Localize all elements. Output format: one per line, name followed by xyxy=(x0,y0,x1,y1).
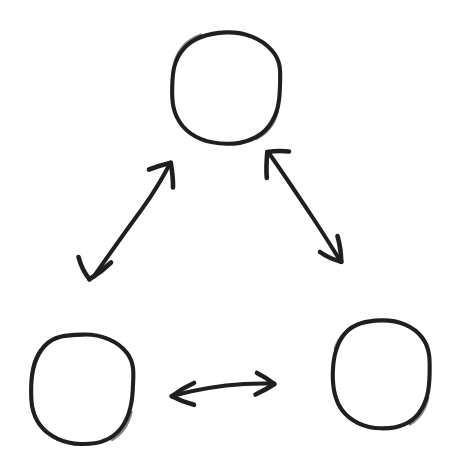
arrow-right-shaft xyxy=(270,154,340,260)
top-circle[interactable] xyxy=(172,32,280,143)
top-circle-outline xyxy=(172,32,280,143)
sketch-diagram xyxy=(0,0,457,464)
arrow-top-to-bottom-right[interactable] xyxy=(266,151,341,262)
arrow-bottom-left-to-bottom-right[interactable] xyxy=(172,373,274,405)
arrow-bottom-head-left-2 xyxy=(172,396,194,405)
bottom-left-circle[interactable] xyxy=(31,335,133,444)
arrow-right-head-upper xyxy=(267,151,289,152)
arrow-left-head-upper-2 xyxy=(171,163,173,188)
bottom-right-circle[interactable] xyxy=(333,320,430,428)
bottom-right-circle-outline xyxy=(333,320,430,428)
arrow-right-head-upper-2 xyxy=(266,152,267,178)
arrow-bottom-head-right-2 xyxy=(256,384,275,395)
arrow-left-head-lower xyxy=(79,257,90,279)
arrow-top-to-bottom-left[interactable] xyxy=(79,163,174,279)
arrow-left-shaft xyxy=(94,165,170,278)
bottom-left-circle-outline xyxy=(31,335,133,444)
diagram-canvas: Three nodes connected by bidirectional a… xyxy=(0,0,457,464)
